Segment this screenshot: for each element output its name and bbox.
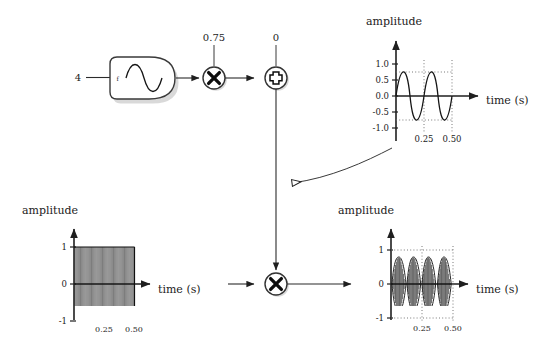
chart-modulated-ytick-1: 0 — [379, 279, 384, 289]
chart-modulated-ytick-2: -1 — [376, 313, 384, 323]
input-value-label: 4 — [75, 72, 81, 83]
chart-modulated-xlabel: time (s) — [476, 283, 519, 296]
chart-modulator-ytick-2: 0.0 — [375, 91, 389, 101]
chart-modulated-xtick-1: 0.50 — [444, 324, 462, 333]
chart-carrier-ytick-2: -1 — [59, 316, 67, 326]
gain-constant-label: 0.75 — [203, 32, 225, 43]
chart-modulator-ytick-4: -1.0 — [373, 123, 389, 133]
offset-add-circle — [265, 67, 287, 89]
chart-carrier-ytick-1: 0 — [62, 279, 67, 289]
chart-carrier-xlabel: time (s) — [158, 283, 201, 296]
chart-carrier-xtick-0: 0.25 — [95, 325, 113, 334]
chart-modulated-ytick-0: 1 — [379, 245, 384, 255]
chart-modulator-ytick-0: 1.0 — [375, 59, 389, 69]
chart-modulated-xtick-0: 0.25 — [413, 324, 431, 333]
chart-modulator-ylabel: amplitude — [366, 15, 422, 28]
input-value-4: 4 — [75, 72, 81, 83]
chart-modulator-ytick-1: 0.5 — [375, 75, 389, 85]
chart-modulated-ylabel: amplitude — [338, 204, 394, 217]
offset-constant-label: 0 — [273, 32, 279, 43]
chart-modulator-ytick-3: -0.5 — [373, 107, 389, 117]
chart-modulator-xtick-1: 0.50 — [443, 134, 462, 144]
chart-carrier-ytick-0: 1 — [62, 242, 67, 252]
oscillator-block-body — [110, 57, 175, 99]
chart-modulator-xlabel: time (s) — [486, 94, 529, 107]
chart-carrier-ylabel: amplitude — [22, 204, 78, 217]
chart-carrier-xtick-1: 0.50 — [125, 325, 143, 334]
diagram-canvas: 4 f 0.75 0 — [0, 0, 543, 344]
chart-modulator-xtick-0: 0.25 — [415, 134, 434, 144]
oscillator-block[interactable]: f — [110, 57, 179, 104]
